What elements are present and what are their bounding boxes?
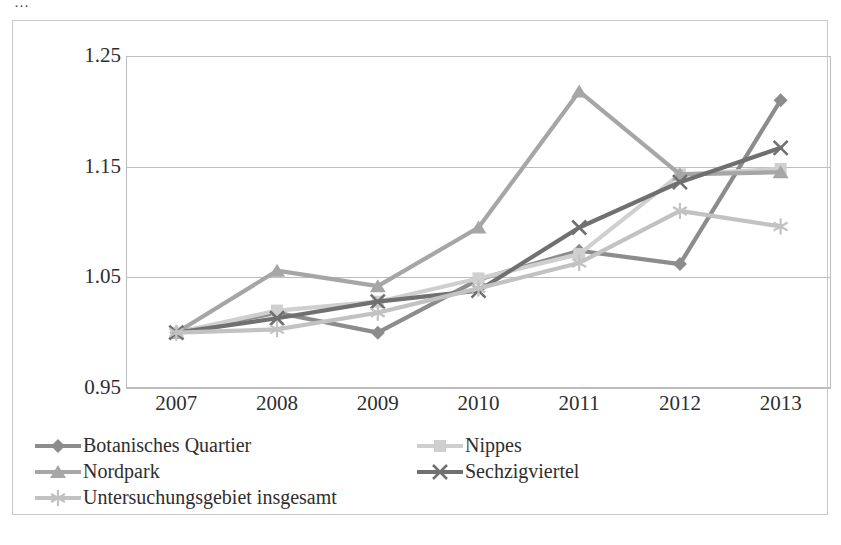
legend-item[interactable]: Nippes bbox=[417, 435, 522, 457]
triangle-marker bbox=[571, 84, 587, 97]
y-axis-tick-label: 0.95 bbox=[33, 377, 121, 398]
x-axis-ticks: 2007200820092010201120122013 bbox=[126, 393, 831, 427]
y-axis-tick-label: 1.25 bbox=[33, 45, 121, 66]
legend-row: Untersuchungsgebiet insgesamt bbox=[35, 485, 815, 511]
square-marker bbox=[434, 440, 446, 452]
x-axis-tick-label: 2007 bbox=[155, 393, 197, 414]
diamond-marker bbox=[51, 439, 65, 453]
legend-item[interactable]: Sechzigviertel bbox=[417, 461, 579, 483]
y-axis-ticks: 0.951.051.151.25 bbox=[25, 56, 121, 388]
series-lines bbox=[126, 56, 831, 388]
series-botanisches-quartier bbox=[169, 93, 787, 339]
square-marker bbox=[417, 436, 463, 456]
series-nippes bbox=[170, 163, 786, 339]
x-marker bbox=[417, 462, 463, 482]
y-axis-tick-label: 1.15 bbox=[33, 156, 121, 177]
gridline bbox=[126, 388, 831, 389]
legend-item-label: Untersuchungsgebiet insgesamt bbox=[83, 487, 337, 509]
x-axis-tick-label: 2008 bbox=[256, 393, 298, 414]
legend-item[interactable]: Nordpark bbox=[35, 461, 417, 483]
triangle-marker bbox=[35, 462, 81, 482]
diamond-marker bbox=[35, 436, 81, 456]
x-axis-tick-label: 2012 bbox=[659, 393, 701, 414]
legend-item-label: Nordpark bbox=[83, 461, 160, 483]
y-axis-tick-label: 1.05 bbox=[33, 266, 121, 287]
chart-figure: … 0.951.051.151.25 200720082009201020112… bbox=[0, 0, 841, 545]
legend-item[interactable]: Botanisches Quartier bbox=[35, 435, 417, 457]
chart-frame: 0.951.051.151.25 20072008200920102011201… bbox=[12, 20, 828, 515]
clipped-caption-text: … bbox=[14, 0, 29, 8]
legend-item-label: Botanisches Quartier bbox=[83, 435, 251, 457]
legend-item[interactable]: Untersuchungsgebiet insgesamt bbox=[35, 487, 417, 509]
legend-item-label: Nippes bbox=[465, 435, 522, 457]
x-axis-tick-label: 2011 bbox=[559, 393, 600, 414]
legend-item-label: Sechzigviertel bbox=[465, 461, 579, 483]
x-axis-tick-label: 2009 bbox=[357, 393, 399, 414]
x-axis-tick-label: 2010 bbox=[458, 393, 500, 414]
plot-area bbox=[126, 56, 831, 388]
chart-legend: Botanisches QuartierNippesNordparkSechzi… bbox=[35, 433, 815, 511]
legend-row: NordparkSechzigviertel bbox=[35, 459, 815, 485]
legend-row: Botanisches QuartierNippes bbox=[35, 433, 815, 459]
x-axis-tick-label: 2013 bbox=[760, 393, 802, 414]
asterisk-marker bbox=[35, 488, 81, 508]
